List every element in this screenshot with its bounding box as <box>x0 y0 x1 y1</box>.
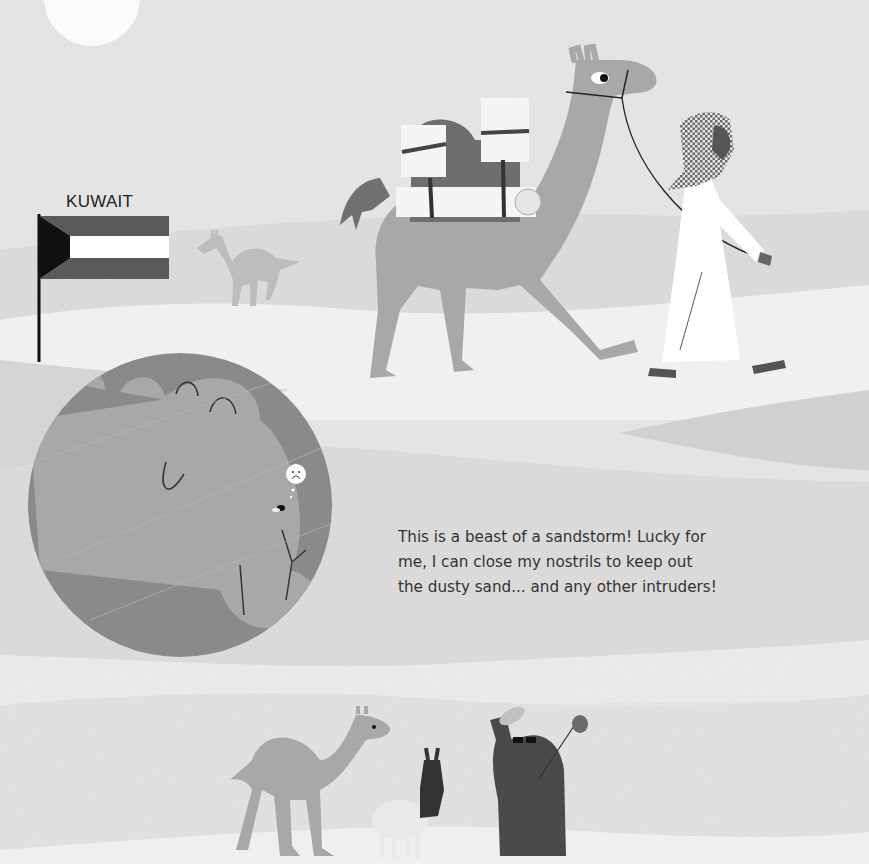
caption-line: the dusty sand... and any other intruder… <box>398 575 758 600</box>
flag-country-label: KUWAIT <box>66 192 133 212</box>
desert-illustration <box>0 0 869 864</box>
caption-line: me, I can close my nostrils to keep out <box>398 550 758 575</box>
caption-text: This is a beast of a sandstorm! Lucky fo… <box>398 525 758 600</box>
book-page: KUWAIT This is a beast of a sandstorm! L… <box>0 0 869 864</box>
bindle-bag-icon <box>572 715 588 733</box>
sad-face-icon <box>286 464 306 484</box>
caption-line: This is a beast of a sandstorm! Lucky fo… <box>398 525 758 550</box>
